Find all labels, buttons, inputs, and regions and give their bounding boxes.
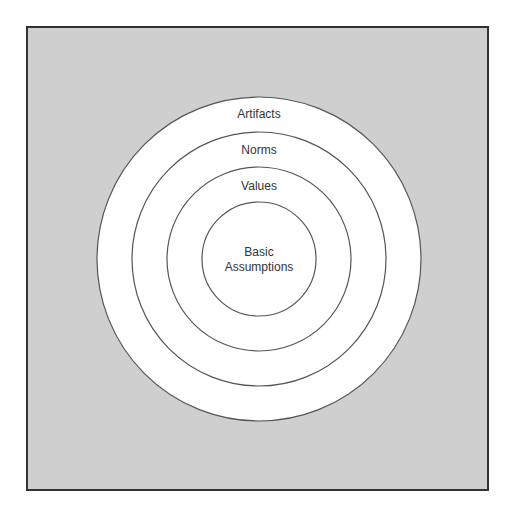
norms-label: Norms [241, 143, 276, 157]
basic-label: Basic [244, 245, 273, 259]
assumptions-label: Assumptions [225, 260, 294, 274]
values-label: Values [241, 179, 277, 193]
basic-assumptions-circle [202, 202, 316, 316]
concentric-circles [0, 0, 518, 518]
artifacts-label: Artifacts [237, 107, 280, 121]
